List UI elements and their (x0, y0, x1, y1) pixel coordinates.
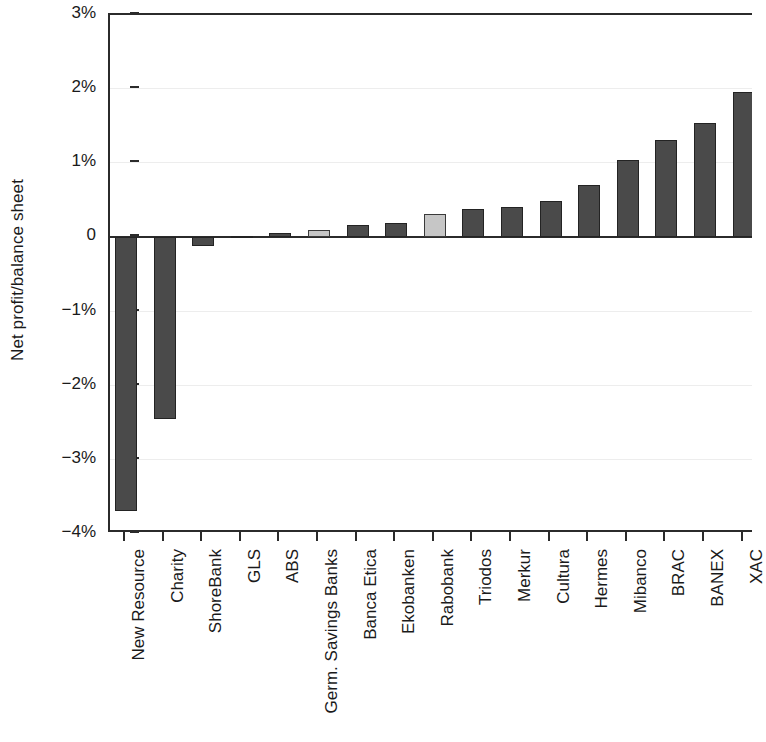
x-axis-tick-label: Banca Etica (362, 545, 379, 742)
y-axis-title-text: Net profit/balance sheet (8, 179, 28, 361)
x-axis-tick-mark (702, 532, 704, 541)
bar (154, 237, 176, 419)
gridline (110, 459, 752, 460)
x-axis-tick-label: Rabobank (439, 545, 456, 742)
x-axis-tick-label: BANEX (709, 545, 726, 742)
x-axis-tick-mark (393, 532, 395, 541)
y-axis-tick-label: 0 (34, 226, 96, 243)
x-axis-tick-mark (355, 532, 357, 541)
x-axis-tick-label: ShoreBank (207, 545, 224, 742)
x-axis-tick-label: GLS (246, 545, 263, 742)
bar (115, 237, 137, 511)
x-axis-tick-mark (470, 532, 472, 541)
gridline (110, 385, 752, 386)
bar (347, 225, 369, 238)
bar (578, 185, 600, 238)
x-axis-tick-label: Mibanco (632, 545, 649, 742)
x-axis-tick-mark (663, 532, 665, 541)
x-axis-tick-label: Ekobanken (400, 545, 417, 742)
gridline (110, 88, 752, 89)
x-axis-tick-label: Germ. Savings Banks (323, 545, 340, 742)
x-axis-tick-mark (162, 532, 164, 541)
x-axis-tick-mark (432, 532, 434, 541)
x-axis-tick-mark (625, 532, 627, 541)
plot-area (108, 13, 752, 532)
bar (192, 237, 214, 246)
x-axis-tick-mark (200, 532, 202, 541)
bar (655, 140, 677, 238)
bar (269, 233, 291, 237)
y-axis-tick-label: −3% (34, 449, 96, 466)
bar (231, 236, 253, 238)
bar (540, 201, 562, 237)
bar (694, 123, 716, 237)
x-axis-tick-label: Hermes (593, 545, 610, 742)
x-axis-tick-mark (509, 532, 511, 541)
x-axis-tick-label: Merkur (516, 545, 533, 742)
bar (424, 214, 446, 238)
y-axis-tick-label: −4% (34, 523, 96, 540)
bar (501, 207, 523, 237)
x-axis-tick-mark (548, 532, 550, 541)
y-axis-tick-label: 1% (34, 152, 96, 169)
x-axis-tick-mark (741, 532, 743, 541)
bar (462, 209, 484, 238)
x-axis-tick-label: Charity (169, 545, 186, 742)
x-axis-tick-label: XAC (748, 545, 765, 742)
bar (733, 92, 752, 237)
x-axis-tick-label: Triodos (477, 545, 494, 742)
x-axis-tick-mark (316, 532, 318, 541)
x-axis-tick-mark (123, 532, 125, 541)
gridline (110, 311, 752, 312)
y-axis-tick-label: −1% (34, 301, 96, 318)
y-axis-tick-label: 2% (34, 78, 96, 95)
x-axis-tick-label: BRAC (670, 545, 687, 742)
y-axis-tick-label: 3% (34, 4, 96, 21)
y-axis-tick-labels: 3%2%1%0−1%−2%−3%−4% (30, 0, 96, 560)
bar (385, 223, 407, 237)
bar (617, 160, 639, 238)
x-axis-tick-mark (239, 532, 241, 541)
x-axis-tick-label: New Resource (130, 545, 147, 742)
x-axis-tick-label: ABS (284, 545, 301, 742)
y-axis-tick-label: −2% (34, 375, 96, 392)
x-axis-tick-label: Cultura (555, 545, 572, 742)
x-axis-tick-mark (277, 532, 279, 541)
bar (308, 230, 330, 237)
x-axis-tick-mark (586, 532, 588, 541)
